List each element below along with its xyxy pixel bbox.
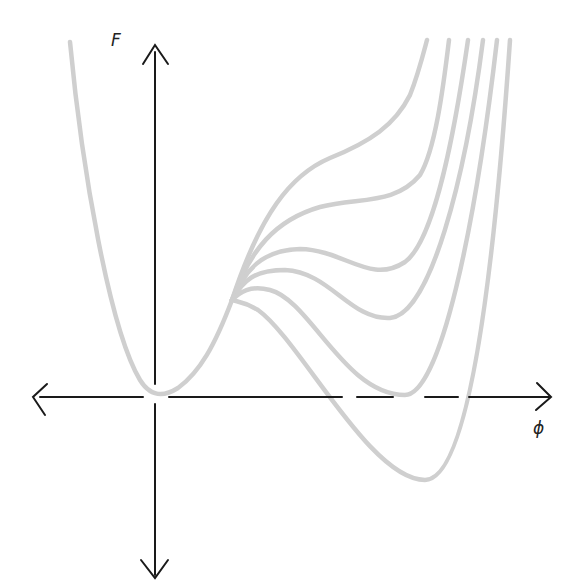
x-axis-label: ϕ (533, 418, 544, 438)
axes-group (33, 45, 551, 578)
y-axis-label: F (111, 30, 121, 50)
curve-6 (232, 40, 510, 480)
free-energy-diagram: F ϕ (0, 0, 579, 588)
curve-left-branch (70, 42, 232, 394)
x-axis-left-arrow-icon (33, 384, 47, 415)
curves-group (70, 40, 510, 480)
curve-5 (232, 40, 497, 395)
